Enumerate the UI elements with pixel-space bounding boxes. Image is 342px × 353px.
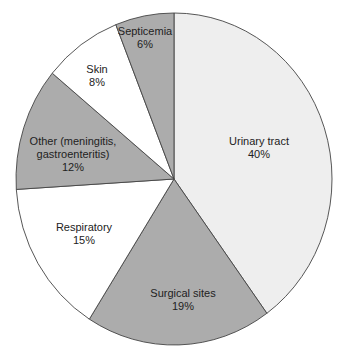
slice-pct: 8% [86, 76, 107, 89]
slice-name: Surgical sites [150, 287, 215, 300]
slice-name: Septicemia [118, 25, 172, 38]
slice-pct: 12% [30, 161, 117, 174]
slice-pct: 6% [118, 38, 172, 51]
slice-name-line2: gastroenteritis) [30, 148, 117, 161]
slice-pct: 19% [150, 300, 215, 313]
slice-pct: 40% [229, 148, 289, 161]
slice-pct: 15% [56, 234, 112, 247]
slice-name-line1: Other (meningitis, [30, 135, 117, 148]
label-surgical-sites: Surgical sites 19% [150, 287, 215, 313]
slice-name: Skin [86, 63, 107, 76]
label-skin: Skin 8% [86, 63, 107, 89]
label-septicemia: Septicemia 6% [118, 25, 172, 51]
label-respiratory: Respiratory 15% [56, 221, 112, 247]
label-urinary-tract: Urinary tract 40% [229, 135, 289, 161]
label-other: Other (meningitis, gastroenteritis) 12% [30, 135, 117, 174]
slice-name: Urinary tract [229, 135, 289, 148]
slice-name: Respiratory [56, 221, 112, 234]
